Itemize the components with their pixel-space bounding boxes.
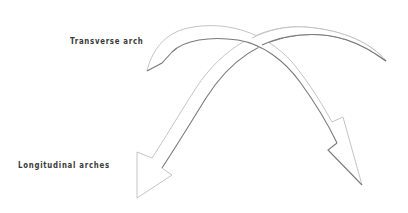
longitudinal-arch-arrow [137,27,386,198]
arches-diagram [0,0,408,213]
longitudinal-arches-label: Longitudinal arches [18,160,110,170]
longitudinal-arch-overlap [252,27,386,61]
transverse-arch-label: Transverse arch [70,36,144,46]
